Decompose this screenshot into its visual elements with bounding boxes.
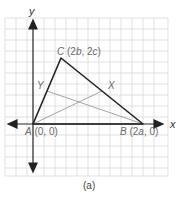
- point-c-label: C (2b, 2c): [57, 47, 101, 57]
- y-axis-label: y: [29, 6, 35, 17]
- median-a-to-x: [33, 91, 102, 124]
- coordinate-diagram: [0, 0, 185, 201]
- point-y-label: Y: [37, 81, 44, 91]
- point-a-label: A (0, 0): [25, 127, 58, 137]
- point-x-label: X: [108, 81, 115, 91]
- figure-caption: (a): [83, 180, 95, 191]
- grid: [5, 18, 168, 176]
- point-b-label: B (2a, 0): [120, 127, 158, 137]
- y-axis: [29, 20, 37, 172]
- median-b-to-y: [47, 91, 143, 124]
- x-axis-label: x: [170, 119, 176, 130]
